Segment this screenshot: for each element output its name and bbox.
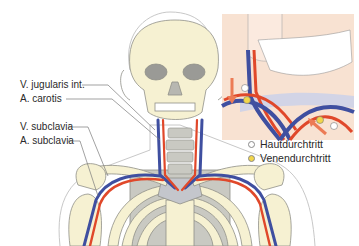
- skull: [121, 20, 228, 120]
- white-circle-icon: [248, 141, 255, 148]
- legend-item-hautdurchtritt: Hautdurchtritt: [248, 137, 331, 151]
- yellow-circle-icon: [248, 155, 255, 162]
- label-a-subclavia: A. subclavia: [20, 135, 74, 147]
- label-v-jugularis-int: V. jugularis int.: [20, 79, 85, 91]
- legend-item-venendurchtritt: Venendurchtritt: [248, 151, 331, 165]
- label-a-carotis: A. carotis: [20, 93, 62, 105]
- legend: Hautdurchtritt Venendurchtritt: [248, 137, 331, 165]
- cervical-spine: [166, 128, 194, 174]
- inset-panel: [222, 14, 354, 140]
- label-v-subclavia: V. subclavia: [20, 121, 73, 133]
